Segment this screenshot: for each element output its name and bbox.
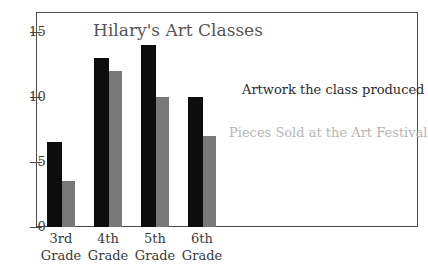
bar	[47, 142, 62, 227]
x-axis-tick-label-line: Grade	[173, 247, 231, 264]
bar	[141, 45, 156, 227]
x-axis-tick-label-line: 6th	[173, 230, 231, 247]
bar	[203, 136, 216, 227]
x-axis-labels: 3rdGrade4thGrade5thGrade6thGrade	[36, 230, 418, 273]
bars-layer	[36, 12, 418, 227]
bar	[62, 181, 75, 227]
bar	[94, 58, 109, 227]
bar	[188, 97, 203, 227]
bar	[109, 71, 122, 227]
bar	[156, 97, 169, 227]
chart-title: Hilary's Art Classes	[88, 20, 268, 40]
legend-item-pieces-sold: Pieces Sold at the Art Festival	[229, 125, 428, 141]
x-axis-tick-label: 6thGrade	[173, 230, 231, 264]
legend-item-artwork-produced: Artwork the class produced	[242, 82, 424, 98]
